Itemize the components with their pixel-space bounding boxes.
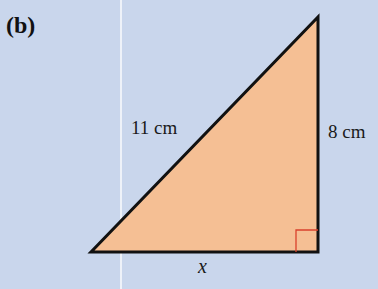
triangle [91,17,318,252]
vertical-side-label: 8 cm [328,121,365,143]
hypotenuse-label: 11 cm [131,117,177,139]
right-triangle-diagram [0,0,378,289]
base-label: x [198,255,207,278]
